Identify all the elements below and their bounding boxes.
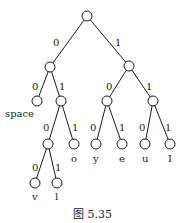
bit-label-n11-left: 0: [139, 122, 145, 133]
bit-label-n0-right: 1: [59, 81, 65, 92]
bit-label-n1-right: 1: [146, 81, 152, 92]
edge-n11-0: [145, 101, 153, 144]
leaf-label-y: y: [92, 153, 99, 164]
edge-n10-0: [96, 101, 107, 144]
bit-label-root-right: 1: [115, 37, 121, 48]
leaf-label-I: I: [168, 153, 172, 164]
leaf-node-space: [32, 96, 42, 106]
leaf-node-l: [52, 178, 62, 188]
leaf-node-u: [140, 139, 150, 149]
leaf-node-v: [30, 178, 40, 188]
edge-n01-0: [48, 101, 61, 144]
bit-label-n01-right: 1: [72, 122, 78, 133]
node-root: [82, 11, 92, 21]
leaf-node-e: [117, 139, 127, 149]
node-n010: [43, 139, 53, 149]
bit-label-n0-left: 0: [32, 81, 38, 92]
leaf-symbol-labels: space o y e u I v l: [5, 108, 172, 202]
edge-root-1: [87, 16, 129, 66]
leaf-label-o: o: [71, 153, 77, 164]
node-n0: [45, 62, 55, 72]
leaf-label-e: e: [119, 153, 125, 164]
bit-label-n11-right: 1: [165, 122, 171, 133]
bit-label-n10-right: 1: [119, 122, 125, 133]
bit-label-n010-right: 1: [55, 162, 61, 173]
leaf-label-space: space: [5, 108, 34, 119]
leaf-node-I: [165, 139, 175, 149]
node-n01: [56, 96, 66, 106]
node-n1: [124, 61, 134, 71]
bit-label-root-left: 0: [53, 37, 59, 48]
leaf-node-o: [69, 139, 79, 149]
leaf-label-l: l: [55, 191, 58, 202]
node-n11: [148, 96, 158, 106]
leaf-label-v: v: [31, 191, 38, 202]
bit-label-n01-left: 0: [43, 122, 49, 133]
leaf-label-u: u: [142, 153, 149, 164]
node-n10: [102, 96, 112, 106]
bit-label-n1-left: 0: [106, 81, 112, 92]
bit-label-n010-left: 0: [32, 162, 38, 173]
figure-caption: 图 5.35: [0, 205, 185, 221]
code-tree-diagram: 0 1 0 1 0 1 0 1 0 1 0 1 0 1 space o y e …: [0, 0, 185, 223]
bit-label-n10-left: 0: [90, 122, 96, 133]
leaf-node-y: [91, 139, 101, 149]
